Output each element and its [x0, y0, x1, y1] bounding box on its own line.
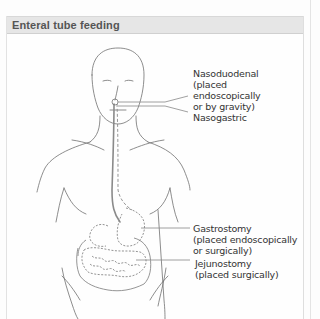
hip-right: [150, 276, 168, 300]
label-nasogastric: Nasogastric: [193, 112, 247, 123]
label-jejunostomy: Jejunostomy (placed surgically): [195, 258, 279, 280]
shoulder-right: [148, 142, 190, 190]
intestine-coils: [92, 256, 140, 266]
leader-nasogastric: [118, 106, 188, 112]
label-gastrostomy: Gastrostomy (placed endoscopically or su…: [193, 223, 297, 256]
duodenum-outline: [90, 224, 108, 246]
intestine-outline: [82, 248, 146, 277]
torso-left: [56, 188, 64, 222]
eyebrow-left: [103, 80, 111, 81]
label-nasoduodenal: Nasoduodenal (placed endoscopically or b…: [193, 68, 261, 112]
colon-outline: [77, 238, 151, 291]
shoulder-left: [37, 142, 90, 192]
clavicle-left: [72, 140, 104, 150]
neck-left: [90, 116, 100, 142]
nasogastric-tube: [112, 104, 120, 222]
neck-right: [136, 116, 148, 142]
torso-left-inner: [64, 188, 86, 214]
eyebrow-right: [125, 80, 133, 81]
intestine-coils-2: [90, 264, 126, 272]
leader-nasoduodenal: [118, 96, 188, 102]
nose: [115, 86, 118, 100]
torso-right: [170, 188, 178, 222]
torso-right-inner: [150, 188, 170, 214]
colon-inner: [78, 240, 86, 256]
